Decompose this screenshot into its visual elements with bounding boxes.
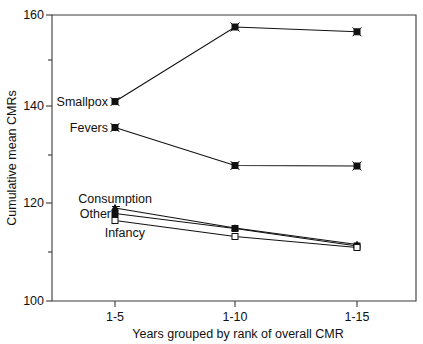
x-tick-labels: 1-5 1-10 1-15 [106,310,370,324]
series-label-other: Other [80,207,111,221]
y-tick-labels: 160 140 120 100 [23,8,44,308]
x-axis-title: Years grouped by rank of overall CMR [132,327,343,341]
marker-fevers-1-10 [231,161,240,170]
y-tick-label-140: 140 [23,99,44,113]
y-tick-label-160: 160 [23,8,44,22]
series-other [112,211,360,250]
x-tick-label-1-15: 1-15 [344,310,369,324]
marker-infancy-1-10 [232,234,238,240]
y-tick-label-100: 100 [23,294,44,308]
y-axis-ticks [46,15,52,301]
marker-fevers-1-5 [111,123,120,132]
series-label-smallpox: Smallpox [57,95,109,109]
y-tick-label-120: 120 [23,196,44,210]
marker-infancy-1-5 [112,218,118,224]
marker-smallpox-1-15 [353,27,362,36]
marker-smallpox-1-5 [111,97,120,106]
chart-container: 160 140 120 100 1-5 1-10 1-15 Years grou… [0,0,423,344]
series-smallpox [111,23,362,107]
x-axis-ticks [115,301,357,307]
series-infancy [112,218,360,251]
marker-infancy-1-15 [354,245,360,251]
x-tick-label-1-10: 1-10 [222,310,247,324]
series-label-consumption: Consumption [78,192,152,206]
series-label-infancy: Infancy [105,226,146,240]
plot-frame [52,15,416,301]
series-fevers [111,123,362,171]
marker-smallpox-1-10 [231,23,240,32]
y-axis-title: Cumulative mean CMRs [5,90,19,225]
marker-other-1-5 [112,211,118,217]
series-label-fevers: Fevers [70,121,108,135]
line-chart: 160 140 120 100 1-5 1-10 1-15 Years grou… [0,0,423,344]
marker-other-1-10 [232,226,238,232]
marker-fevers-1-15 [353,162,362,171]
x-tick-label-1-5: 1-5 [106,310,124,324]
